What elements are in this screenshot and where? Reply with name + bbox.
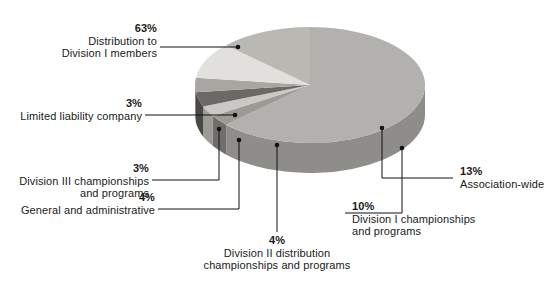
callout-line-1: Division I championships [352, 213, 532, 226]
callout-percent: 3% [0, 97, 142, 110]
callout-percent: 63% [20, 22, 157, 35]
callout-line-1: Division II distribution [187, 247, 367, 260]
callout-line-1: Division III championships [0, 175, 149, 188]
dot-division-i-championships [400, 146, 405, 151]
callout-limited-liability-company: 3% Limited liability company [0, 97, 142, 122]
callout-line-1: Limited liability company [0, 110, 142, 123]
dot-general-administrative [237, 138, 242, 143]
callout-division-ii-distribution: 4% Division II distribution championship… [187, 234, 367, 272]
callout-percent: 4% [0, 191, 155, 204]
dot-division-ii-distribution [275, 143, 280, 148]
callout-percent: 13% [460, 165, 554, 178]
callout-line-2: Division I members [20, 47, 157, 60]
callout-line-1: Association-wide [460, 178, 554, 191]
callout-percent: 10% [352, 200, 532, 213]
dot-division-iii-championships [217, 127, 222, 132]
dot-limited-liability-company [233, 113, 238, 118]
pie-chart-figure: 63% Distribution to Division I members 3… [0, 0, 554, 283]
pie-top-faces [195, 27, 425, 143]
callout-line-1: General and administrative [0, 204, 155, 217]
callout-line-2: championships and programs [187, 259, 367, 272]
callout-line-1: Distribution to [20, 35, 157, 48]
dot-association-wide [380, 126, 385, 131]
callout-division-i-championships: 10% Division I championships and program… [352, 200, 532, 238]
callout-association-wide: 13% Association-wide [460, 165, 554, 190]
callout-line-2: and programs [352, 225, 532, 238]
callout-percent: 3% [0, 162, 149, 175]
dot-distribution-division-i-members [236, 45, 241, 50]
callout-percent: 4% [187, 234, 367, 247]
callout-general-administrative: 4% General and administrative [0, 191, 155, 216]
callout-distribution-division-i-members: 63% Distribution to Division I members [20, 22, 157, 60]
